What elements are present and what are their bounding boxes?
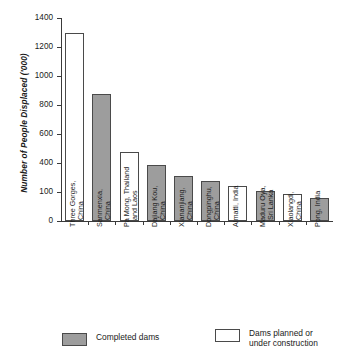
category-label-line1: Pong, India <box>314 191 322 227</box>
category-label-line2: China <box>213 186 221 227</box>
x-axis-category-label: Almatti, India <box>232 185 240 227</box>
legend-swatch-completed-dams <box>62 333 87 346</box>
legend-swatch-planned-dams <box>215 329 240 342</box>
category-label-line2: China <box>77 181 85 227</box>
x-axis-category-label: Xiananjiang,China <box>178 187 194 227</box>
y-axis-tick: 600 <box>57 134 62 135</box>
chart-legend: Completed dams Dams planned or under con… <box>0 328 341 359</box>
x-axis-tick <box>197 221 198 225</box>
x-axis-category-label: Pa Mong, Thailandand Laos <box>123 167 139 227</box>
y-axis-tick-label: 1200 <box>35 42 53 51</box>
y-axis-tick-label: 800 <box>39 100 53 109</box>
legend-item-planned-dams: Dams planned or under construction <box>215 328 318 349</box>
bar-chart: Number of People Displaced ('000) 010040… <box>0 0 341 359</box>
y-axis-tick-label: 1000 <box>35 71 53 80</box>
y-axis-tick: 400 <box>57 163 62 164</box>
x-axis-tick <box>115 221 116 225</box>
x-axis-category-label: Xiaolangdi,China <box>287 191 303 227</box>
y-axis-tick-label: 400 <box>39 158 53 167</box>
y-axis-tick-label: 0 <box>48 216 53 225</box>
category-label-line2: China <box>295 191 303 227</box>
legend-label-planned-line1: Dams planned or <box>249 328 318 338</box>
x-axis-tick <box>170 221 171 225</box>
y-axis-tick-label: 1400 <box>35 13 53 22</box>
category-label-line2: Sri Lanka <box>268 185 276 227</box>
x-axis-tick <box>88 221 89 225</box>
y-axis-tick-label: 600 <box>39 129 53 138</box>
category-label-line2: China <box>186 187 194 227</box>
y-axis-tick: 0 <box>57 221 62 222</box>
legend-label-planned-line2: under construction <box>249 338 318 348</box>
category-label-line2: China <box>159 186 167 227</box>
category-label-line2: China <box>104 189 112 227</box>
y-axis-tick: 1200 <box>57 47 62 48</box>
x-axis-tick <box>143 221 144 225</box>
legend-label-completed-dams: Completed dams <box>96 332 159 342</box>
legend-label-planned-dams: Dams planned or under construction <box>249 328 318 349</box>
y-axis-line <box>61 18 62 221</box>
x-axis-category-label: Three Gorges,China <box>69 181 85 227</box>
x-axis-tick <box>306 221 307 225</box>
y-axis-tick: 1000 <box>57 76 62 77</box>
category-label-line2: and Laos <box>132 167 140 227</box>
x-axis-tick <box>251 221 252 225</box>
x-axis-tick <box>224 221 225 225</box>
x-axis-category-label: Sanmenxia,China <box>96 189 112 227</box>
x-axis-tick <box>279 221 280 225</box>
y-axis-tick: 100 <box>57 192 62 193</box>
y-axis-tick: 800 <box>57 105 62 106</box>
y-axis-tick-label: 100 <box>39 187 53 196</box>
x-axis-category-label: Maduru Oya,Sri Lanka <box>259 185 275 227</box>
legend-label-completed-line1: Completed dams <box>96 332 159 342</box>
y-axis-tick: 1400 <box>57 18 62 19</box>
legend-item-completed-dams: Completed dams <box>62 332 159 346</box>
x-axis-category-label: Dongpinghu,China <box>205 186 221 227</box>
x-axis-category-label: Dajiang Kou,China <box>151 186 167 227</box>
category-label-line1: Almatti, India <box>232 185 240 227</box>
x-axis-category-label: Pong, India <box>314 191 322 227</box>
y-axis-title: Number of People Displaced ('000) <box>19 23 29 223</box>
